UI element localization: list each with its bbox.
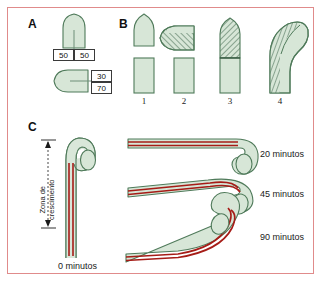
figure-root: A	[0, 0, 321, 281]
time-label-20-minutes: 20 minutos	[260, 149, 304, 159]
growth-zone-label-line1: Zona de	[38, 186, 47, 214]
pollen-tube-90-minutes	[126, 193, 240, 262]
time-label-0-minutes: 0 minutos	[58, 261, 97, 271]
time-label-90-minutes: 90 minutos	[260, 232, 304, 242]
growth-zone-label: Zona de crescimento	[38, 180, 56, 220]
growth-zone-label-line2: crescimento	[47, 180, 56, 220]
pollen-tube-0-minutes	[66, 138, 96, 258]
time-label-45-minutes: 45 minutos	[260, 189, 304, 199]
figure-border: A	[7, 7, 314, 274]
pollen-tube-20-minutes	[128, 139, 258, 174]
